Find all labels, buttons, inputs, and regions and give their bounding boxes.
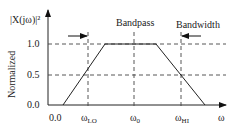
x-tick-omega-hi: ωHI	[175, 113, 189, 125]
y-tick-0-0: 0.0	[27, 100, 40, 110]
y-axis-title: |X(jω)|²	[10, 15, 40, 25]
y-tick-1-0: 1.0	[27, 39, 40, 49]
y-axis-label: Normalized	[6, 51, 17, 98]
x-tick-omega-lo: ωLO	[81, 113, 97, 125]
x-tick-origin: 0.0	[49, 113, 62, 123]
x-tick-omega-0: ω0	[130, 113, 140, 125]
x-axis-symbol: ω	[218, 113, 225, 123]
y-tick-0-5: 0.5	[27, 70, 40, 80]
bandwidth-label: Bandwidth	[176, 20, 220, 30]
bandpass-label: Bandpass	[116, 18, 154, 28]
